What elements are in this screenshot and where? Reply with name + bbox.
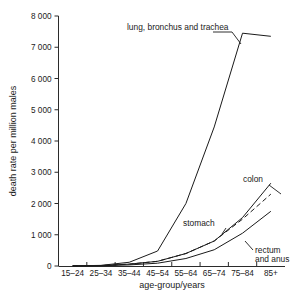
y-tick-label: 6 000 bbox=[31, 75, 52, 84]
series-label-stomach: stomach bbox=[183, 218, 215, 228]
x-tick-label: 55–64 bbox=[175, 269, 198, 278]
y-tick-label: 8 000 bbox=[31, 12, 52, 21]
x-tick-label: 45–54 bbox=[146, 269, 169, 278]
chart-container: 01 0002 0003 0004 0005 0006 0007 0008 00… bbox=[0, 0, 301, 305]
series-label-lung: lung, bronchus and trachea bbox=[127, 22, 229, 32]
y-tick-label: 7 000 bbox=[31, 43, 52, 52]
series-label-colon: colon bbox=[243, 174, 263, 184]
y-tick-label: 5 000 bbox=[31, 106, 52, 115]
x-tick-label: 15–24 bbox=[61, 269, 84, 278]
y-tick-label: 2 000 bbox=[31, 200, 52, 209]
x-tick-label: 85+ bbox=[264, 269, 278, 278]
series-label-rectum-line2: and anus bbox=[255, 254, 289, 264]
y-tick-label: 1 000 bbox=[31, 231, 52, 240]
x-tick-label: 75–84 bbox=[231, 269, 254, 278]
y-tick-label: 4 000 bbox=[31, 137, 52, 146]
y-tick-label: 0 bbox=[47, 262, 52, 271]
y-axis-title: death rate per million males bbox=[8, 85, 18, 196]
x-tick-label: 25–34 bbox=[90, 269, 113, 278]
x-tick-label: 65–74 bbox=[203, 269, 226, 278]
x-axis-title: age-group/years bbox=[139, 280, 205, 290]
y-tick-label: 3 000 bbox=[31, 168, 52, 177]
line-chart: 01 0002 0003 0004 0005 0006 0007 0008 00… bbox=[0, 0, 301, 305]
y-axis-tick-labels: 01 0002 0003 0004 0005 0006 0007 0008 00… bbox=[31, 12, 52, 271]
x-tick-label: 35–44 bbox=[118, 269, 141, 278]
